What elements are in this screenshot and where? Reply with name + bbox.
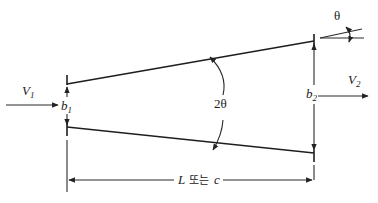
b2-label: b2 (306, 86, 318, 103)
length-or-label: 또는 (189, 174, 209, 187)
upper-wall (67, 41, 314, 85)
length-L-label: L (177, 172, 185, 187)
two-theta-label: 2θ (214, 96, 227, 111)
b1-label: b1 (61, 98, 72, 115)
theta-label: θ (334, 8, 340, 23)
v1-label: V1 (22, 83, 34, 100)
lower-wall (67, 122, 314, 153)
diffuser-diagram: V1 b1 b2 V2 θ 2θ (0, 0, 378, 203)
theta-reference (320, 27, 364, 42)
length-c-label: c (214, 172, 220, 187)
v2-label: V2 (348, 72, 361, 89)
